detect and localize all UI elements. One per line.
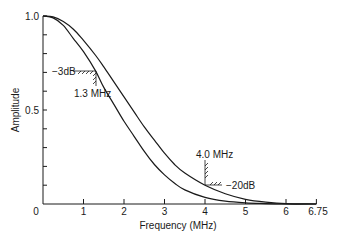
y-tick-label-05: 0.5: [25, 105, 39, 116]
x-tick-label-6: 6: [283, 206, 289, 217]
x-tick-label-2: 2: [121, 206, 127, 217]
freq-1-3mhz-label: 1.3 MHz: [74, 88, 111, 99]
wide-response-curve: [43, 16, 316, 204]
minus-3db-label: −3dB: [52, 66, 76, 77]
narrow-response-curve: [43, 16, 316, 204]
axes: [43, 16, 316, 204]
x-tick-label-1: 1: [81, 206, 87, 217]
x-tick-label-675: 6.75: [308, 206, 328, 217]
freq-4-0mhz-label: 4.0 MHz: [196, 149, 233, 160]
y-axis-title: Amplitude: [10, 87, 21, 132]
minus-3db-marker: [73, 71, 96, 86]
y-ticks: [43, 16, 47, 185]
x-tick-label-3: 3: [162, 206, 168, 217]
amplitude-frequency-chart: 1.0 0.5 0 1 2 3 4 5 6 6.75 Frequency (MH…: [0, 0, 341, 241]
x-tick-label-5: 5: [243, 206, 249, 217]
minus-20db-label: −20dB: [226, 180, 256, 191]
origin-label: 0: [33, 206, 39, 217]
y-tick-label-1: 1.0: [25, 11, 39, 22]
x-axis-title: Frequency (MHz): [139, 220, 216, 231]
minus-20db-marker: [205, 160, 222, 185]
x-tick-label-4: 4: [202, 206, 208, 217]
